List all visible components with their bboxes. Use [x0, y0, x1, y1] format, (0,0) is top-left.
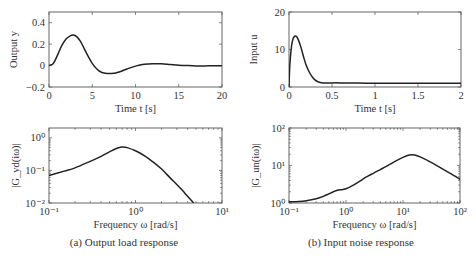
x-tick-label: 5	[90, 90, 95, 101]
x-tick-label: 1.5	[411, 90, 424, 101]
x-tick-label: 0	[46, 90, 51, 101]
y-axis-label: Output y	[8, 30, 19, 68]
data-curve	[289, 155, 460, 202]
plot-frame	[49, 12, 222, 87]
data-curve	[49, 147, 194, 203]
y-axis-label: |G_un(iω)|	[250, 143, 262, 187]
y-tick-label: −0.2	[26, 82, 45, 93]
x-axis-label: Time t [s]	[115, 103, 156, 114]
y-tick-label: 10¹	[271, 160, 285, 171]
caption-b: (b) Input noise response	[308, 236, 414, 249]
y-tick-label: 0.4	[32, 17, 46, 28]
plot-gun-bode: 10⁻¹10⁰10¹10²10⁰10¹10²Frequency ω [rad/s…	[250, 123, 467, 231]
y-tick-label: 10⁻¹	[25, 165, 45, 176]
x-tick-label: 2	[458, 90, 463, 101]
y-tick-label: 0	[280, 82, 285, 93]
plot-gyd-bode: 10⁻¹10⁰10¹10⁻²10⁻¹10⁰Frequency ω [rad/s]…	[10, 128, 229, 230]
y-axis-label: |G_yd(iω)|	[10, 143, 22, 187]
plot-frame	[289, 128, 460, 203]
y-tick-label: 10	[275, 44, 286, 55]
plot-output-time: 05101520−0.200.20.4Time t [s]Output y	[8, 12, 227, 114]
x-tick-label: 0	[286, 90, 291, 101]
x-axis-label: Frequency ω [rad/s]	[94, 219, 178, 230]
plot-input-time: 00.511.5201020Time t [s]Input u	[248, 7, 464, 115]
x-tick-label: 1	[372, 90, 377, 101]
plot-frame	[289, 12, 461, 87]
x-tick-label: 10⁰	[128, 206, 144, 217]
y-tick-label: 20	[275, 7, 286, 18]
x-tick-label: 15	[174, 90, 185, 101]
x-tick-label: 10⁰	[339, 206, 355, 217]
figure: 05101520−0.200.20.4Time t [s]Output y 00…	[0, 0, 476, 263]
data-curve	[289, 36, 461, 87]
x-axis-label: Frequency ω [rad/s]	[333, 219, 417, 230]
y-tick-label: 0.2	[32, 39, 45, 50]
y-axis-label: Input u	[248, 34, 259, 65]
x-tick-label: 10²	[453, 206, 467, 217]
y-tick-label: 10⁰	[31, 132, 47, 143]
caption-a: (a) Output load response	[70, 236, 179, 249]
data-curve	[49, 35, 222, 74]
x-tick-label: 0.5	[325, 90, 338, 101]
y-tick-label: 10²	[271, 123, 285, 134]
y-tick-label: 10⁰	[271, 198, 287, 209]
x-axis-label: Time t [s]	[354, 103, 395, 114]
y-tick-label: 10⁻²	[25, 198, 45, 209]
y-tick-label: 0	[40, 60, 45, 71]
x-tick-label: 10¹	[215, 206, 229, 217]
x-tick-label: 20	[217, 90, 228, 101]
plot-frame	[49, 128, 222, 203]
x-tick-label: 10¹	[396, 206, 410, 217]
x-tick-label: 10	[130, 90, 141, 101]
